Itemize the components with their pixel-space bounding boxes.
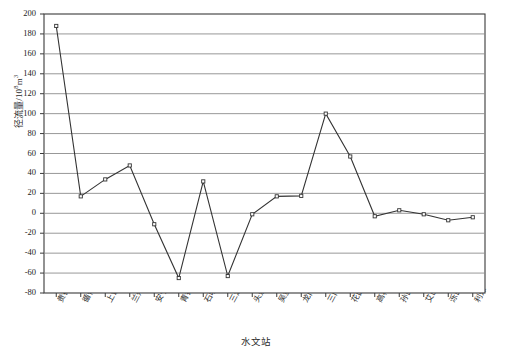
data-point-marker — [177, 276, 180, 279]
data-point-marker — [349, 155, 352, 158]
data-point-marker — [324, 112, 327, 115]
data-point-marker — [300, 194, 303, 197]
data-point-marker — [226, 274, 229, 277]
data-point-marker — [447, 219, 450, 222]
data-point-marker — [128, 164, 131, 167]
data-point-marker — [471, 216, 474, 219]
data-point-marker — [153, 223, 156, 226]
data-point-marker — [422, 213, 425, 216]
data-point-marker — [251, 213, 254, 216]
chart-figure: 径流量/108m3 水文站 20018016014012010080604020… — [0, 0, 511, 359]
data-point-marker — [79, 195, 82, 198]
data-point-marker — [202, 180, 205, 183]
data-point-marker — [373, 215, 376, 218]
data-point-marker — [104, 178, 107, 181]
data-point-marker — [55, 24, 58, 27]
data-point-marker — [398, 209, 401, 212]
plot-canvas — [0, 0, 511, 359]
data-point-marker — [275, 195, 278, 198]
